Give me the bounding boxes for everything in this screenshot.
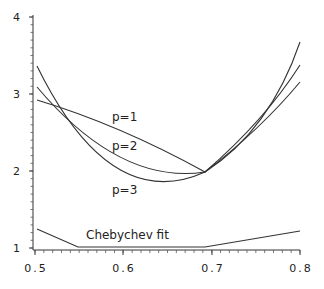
y-tick-1: 1 [13, 242, 22, 255]
label-p1: p=1 [112, 110, 137, 124]
y-tick-3: 3 [13, 88, 22, 101]
label-p3: p=3 [112, 183, 137, 197]
x-tick-0.5: 0.5 [24, 262, 48, 275]
label-p2: p=2 [112, 139, 137, 153]
x-tick-0.8: 0.8 [289, 262, 313, 275]
label-chebychev: Chebychev fit [86, 228, 169, 242]
x-axis [33, 250, 300, 255]
y-tick-2: 2 [13, 165, 22, 178]
y-tick-4: 4 [13, 11, 22, 24]
x-tick-0.7: 0.7 [201, 262, 225, 275]
x-tick-0.6: 0.6 [112, 262, 136, 275]
chart: 4 3 2 1 0.5 0.6 0.7 0.8 p=1 p=2 p=3 Cheb… [0, 0, 324, 289]
curve-p3 [37, 42, 300, 182]
